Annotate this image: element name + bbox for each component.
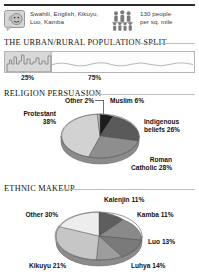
rolling-hills-icon — [51, 63, 193, 66]
density-text: 130 people per sq. mile — [140, 10, 173, 26]
infographic-page: Swahili, English, Kikuyu, Luo, Kamba — [0, 0, 199, 279]
label-ethnic-kalenjin: Kalenjin 11% — [104, 196, 144, 204]
band-graphic — [5, 52, 194, 72]
density-line-2: per sq. mile — [140, 18, 173, 26]
fact-population-density: 130 people per sq. mile — [112, 9, 198, 33]
urban-percent-label: 25% — [21, 74, 34, 81]
label-ethnic-other: Other 30% — [2, 211, 58, 219]
section-rule-urban-rural — [138, 43, 195, 44]
languages-text: Swahili, English, Kikuyu, Luo, Kamba — [30, 10, 98, 26]
urban-rural-band — [4, 51, 195, 73]
speech-bubble-face-icon — [4, 10, 26, 31]
header-facts: Swahili, English, Kikuyu, Luo, Kamba — [4, 9, 195, 35]
label-protestant-line-1: Protestant — [0, 110, 56, 118]
languages-line-2: Luo, Kamba — [30, 18, 98, 26]
label-religion-other: Other 2% — [42, 97, 94, 105]
label-ethnic-kamba: Kamba 11% — [137, 211, 174, 219]
urban-rural-labels: 25% 75% — [4, 74, 195, 84]
label-ethnic-kikuyu: Kikuyu 21% — [6, 262, 66, 270]
label-religion-protestant: Protestant 38% — [0, 110, 56, 127]
fact-languages: Swahili, English, Kikuyu, Luo, Kamba — [4, 9, 109, 33]
label-religion-indigenous: Indigenous beliefs 26% — [144, 118, 180, 135]
density-line-1: 130 people — [140, 10, 173, 18]
label-indigenous-line-1: Indigenous — [144, 118, 180, 126]
label-ethnic-luo: Luo 13% — [148, 238, 175, 246]
languages-line-1: Swahili, English, Kikuyu, — [30, 10, 98, 18]
rural-percent-label: 75% — [88, 74, 101, 81]
label-religion-muslim: Muslim 6% — [110, 97, 144, 105]
label-catholic-line-2: Catholic 28% — [88, 164, 172, 172]
label-protestant-line-2: 38% — [0, 118, 56, 126]
label-ethnic-luhya: Luhya 14% — [131, 262, 165, 270]
city-skyline-icon — [7, 55, 51, 72]
population-density-people-icon — [112, 10, 134, 31]
section-rule-ethnic — [62, 189, 195, 190]
label-indigenous-line-2: beliefs 26% — [144, 126, 180, 134]
label-catholic-line-1: Roman — [88, 156, 172, 164]
section-rule-religion — [83, 94, 195, 95]
leader-other-vertical — [103, 100, 104, 115]
label-religion-roman-catholic: Roman Catholic 28% — [88, 156, 172, 173]
top-divider — [4, 4, 195, 6]
